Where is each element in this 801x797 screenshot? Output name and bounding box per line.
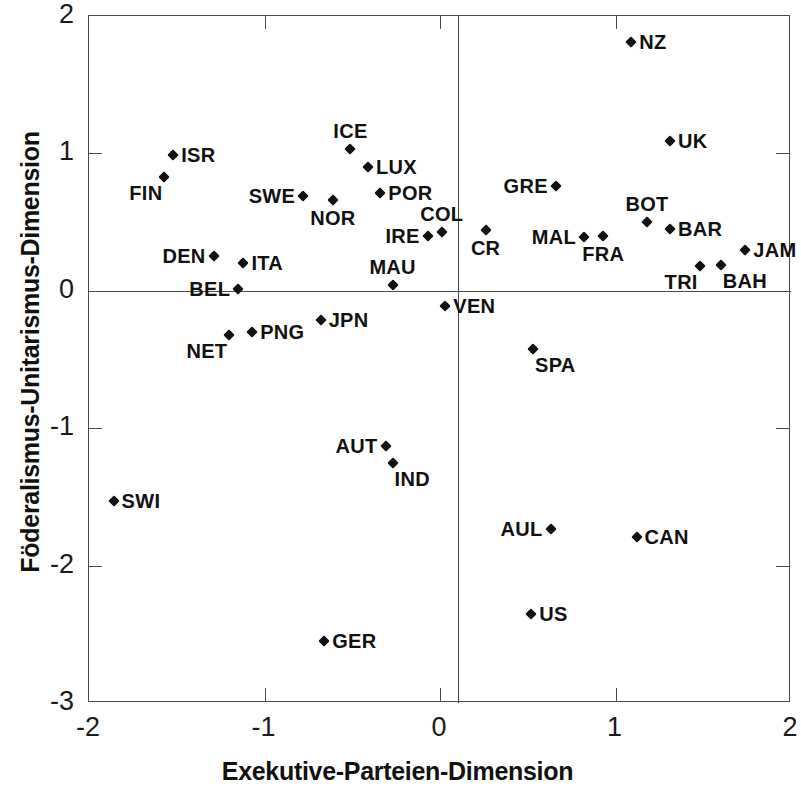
diamond-marker-icon xyxy=(238,258,249,269)
y-tick-mark xyxy=(89,428,102,429)
diamond-marker-icon xyxy=(327,194,338,205)
diamond-marker-icon xyxy=(380,440,391,451)
x-tick-label: 0 xyxy=(409,714,469,741)
data-point-label: NOR xyxy=(310,208,355,228)
y-tick-label: 0 xyxy=(20,276,74,303)
diamond-marker-icon xyxy=(387,280,398,291)
y-tick-label: -2 xyxy=(20,551,74,578)
y-tick-label: -1 xyxy=(20,413,74,440)
x-tick-mark xyxy=(265,688,266,701)
diamond-marker-icon xyxy=(247,326,258,337)
x-tick-label: 2 xyxy=(760,714,801,741)
data-point-label: NET xyxy=(186,341,227,361)
data-point-label: US xyxy=(539,604,567,624)
diamond-marker-icon xyxy=(578,232,589,243)
diamond-marker-icon xyxy=(641,216,652,227)
diamond-marker-icon xyxy=(315,314,326,325)
diamond-marker-icon xyxy=(362,161,373,172)
diamond-marker-icon xyxy=(208,251,219,262)
x-tick-mark xyxy=(440,688,441,701)
y-origin-axis-line xyxy=(458,16,459,703)
diamond-marker-icon xyxy=(159,171,170,182)
diamond-marker-icon xyxy=(694,260,705,271)
data-point-label: CR xyxy=(471,238,501,258)
data-point-label: VEN xyxy=(453,296,495,316)
y-tick-mark xyxy=(89,153,102,154)
diamond-marker-icon xyxy=(740,244,751,255)
data-point-label: SWE xyxy=(249,186,295,206)
x-tick-mark xyxy=(440,16,441,29)
y-tick-mark xyxy=(776,291,789,292)
data-point-label: AUT xyxy=(336,436,378,456)
diamond-marker-icon xyxy=(545,523,556,534)
diamond-marker-icon xyxy=(375,188,386,199)
y-tick-mark xyxy=(89,291,102,292)
diamond-marker-icon xyxy=(527,343,538,354)
y-tick-mark xyxy=(776,428,789,429)
data-point-label: CAN xyxy=(645,527,689,547)
x-tick-mark xyxy=(265,16,266,29)
data-point-label: AUL xyxy=(501,519,543,539)
y-tick-label: -3 xyxy=(20,688,74,715)
data-point-label: ISR xyxy=(181,145,215,165)
data-point-label: SWI xyxy=(122,491,161,511)
x-tick-label: 1 xyxy=(585,714,645,741)
diamond-marker-icon xyxy=(715,259,726,270)
data-point-label: IND xyxy=(395,469,430,489)
data-point-label: FIN xyxy=(129,183,162,203)
x-tick-label: -2 xyxy=(58,714,118,741)
x-tick-mark xyxy=(616,16,617,29)
diamond-marker-icon xyxy=(526,608,537,619)
plot-area: NZICEUKISRLUXFINGREPORSWENORBOTBARMALCOL… xyxy=(88,15,790,702)
data-point-label: BOT xyxy=(626,194,669,214)
diamond-marker-icon xyxy=(422,230,433,241)
diamond-marker-icon xyxy=(224,329,235,340)
diamond-marker-icon xyxy=(550,181,561,192)
diamond-marker-icon xyxy=(480,225,491,236)
diamond-marker-icon xyxy=(387,457,398,468)
data-point-label: LUX xyxy=(376,157,417,177)
diamond-marker-icon xyxy=(108,495,119,506)
data-point-label: PNG xyxy=(260,322,304,342)
y-tick-label: 2 xyxy=(20,1,74,28)
data-point-label: JPN xyxy=(329,310,369,330)
y-tick-mark xyxy=(776,153,789,154)
data-point-label: POR xyxy=(388,183,432,203)
data-point-label: ITA xyxy=(251,253,283,273)
y-tick-label: 1 xyxy=(20,138,74,165)
diamond-marker-icon xyxy=(168,149,179,160)
data-point-label: MAU xyxy=(369,257,415,277)
data-point-label: JAM xyxy=(753,240,796,260)
data-point-label: BAR xyxy=(678,219,722,239)
x-tick-mark xyxy=(616,688,617,701)
diamond-marker-icon xyxy=(664,135,675,146)
diamond-marker-icon xyxy=(318,635,329,646)
y-tick-mark xyxy=(89,566,102,567)
data-point-label: GRE xyxy=(504,176,548,196)
x-tick-label: -1 xyxy=(234,714,294,741)
diamond-marker-icon xyxy=(631,531,642,542)
data-point-label: BAH xyxy=(723,271,767,291)
diamond-marker-icon xyxy=(436,226,447,237)
data-point-label: FRA xyxy=(582,244,624,264)
data-point-label: NZ xyxy=(639,32,666,52)
data-point-label: BEL xyxy=(189,279,230,299)
data-point-label: UK xyxy=(678,131,708,151)
diamond-marker-icon xyxy=(440,300,451,311)
y-tick-mark xyxy=(776,566,789,567)
diamond-marker-icon xyxy=(664,223,675,234)
data-point-label: COL xyxy=(420,204,463,224)
diamond-marker-icon xyxy=(297,190,308,201)
data-point-label: TRI xyxy=(665,272,698,292)
x-axis-title: Exekutive-Parteien-Dimension xyxy=(0,757,795,786)
data-point-label: GER xyxy=(332,631,376,651)
data-point-label: MAL xyxy=(532,227,576,247)
data-point-label: SPA xyxy=(535,355,576,375)
diamond-marker-icon xyxy=(345,144,356,155)
data-point-label: IRE xyxy=(385,226,419,246)
data-point-label: ICE xyxy=(333,121,367,141)
data-point-label: DEN xyxy=(162,246,205,266)
diamond-marker-icon xyxy=(626,36,637,47)
diamond-marker-icon xyxy=(598,230,609,241)
